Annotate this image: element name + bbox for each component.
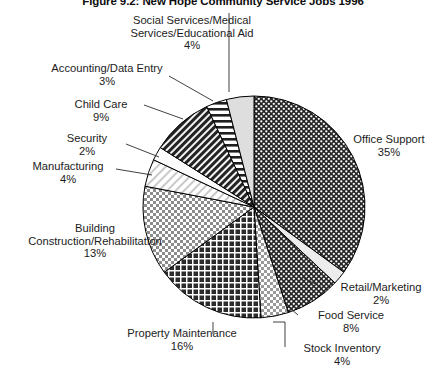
slice-value: 4% bbox=[23, 173, 113, 186]
slice-label-line1: Child Care bbox=[75, 98, 128, 110]
leader-child-care bbox=[144, 105, 183, 119]
slice-value: 4% bbox=[92, 39, 292, 52]
leader-manufacturing bbox=[116, 169, 152, 175]
slice-label-line2: Construction/Rehabilitation bbox=[28, 235, 162, 247]
slice-label-office-support: Office Support 35% bbox=[340, 133, 438, 158]
pie-chart-figure: Figure 9.2: New Hope Community Service J… bbox=[0, 0, 446, 370]
slice-label-manufacturing: Manufacturing 4% bbox=[23, 160, 113, 185]
leader-security bbox=[126, 144, 159, 157]
slice-label-line1: Building bbox=[75, 222, 115, 234]
slice-label-line1: Retail/Marketing bbox=[341, 281, 422, 293]
slice-value: 3% bbox=[47, 75, 167, 88]
leader-stock-inventory bbox=[273, 322, 285, 347]
slice-label-line1: Stock Inventory bbox=[303, 342, 380, 354]
slice-value: 8% bbox=[304, 322, 398, 335]
slice-label-retail-marketing: Retail/Marketing 2% bbox=[326, 281, 436, 306]
slice-value: 4% bbox=[290, 355, 394, 368]
slice-label-line2: Services/Educational Aid bbox=[130, 27, 253, 39]
slice-label-line1: Manufacturing bbox=[33, 160, 104, 172]
slice-label-line1: Property Maintenance bbox=[127, 327, 236, 339]
slice-value: 9% bbox=[63, 111, 139, 124]
slice-label-food-service: Food Service 8% bbox=[304, 309, 398, 334]
slice-value: 13% bbox=[2, 247, 188, 260]
slice-label-social-services: Social Services/Medical Services/Educati… bbox=[92, 14, 292, 52]
slice-label-line1: Food Service bbox=[318, 309, 384, 321]
slice-label-property-maintenance: Property Maintenance 16% bbox=[108, 327, 256, 352]
slice-label-building-construction: Building Construction/Rehabilitation 13% bbox=[2, 222, 188, 260]
leader-accounting bbox=[169, 76, 213, 101]
slice-label-security: Security 2% bbox=[56, 132, 118, 157]
slice-label-child-care: Child Care 9% bbox=[63, 98, 139, 123]
slice-label-line1: Social Services/Medical bbox=[133, 14, 251, 26]
slice-value: 2% bbox=[326, 294, 436, 307]
slice-label-line1: Security bbox=[67, 132, 107, 144]
slice-label-line1: Office Support bbox=[353, 133, 424, 145]
slice-label-line1: Accounting/Data Entry bbox=[51, 62, 162, 74]
slice-label-accounting: Accounting/Data Entry 3% bbox=[47, 62, 167, 87]
slice-label-stock-inventory: Stock Inventory 4% bbox=[290, 342, 394, 367]
slice-value: 2% bbox=[56, 145, 118, 158]
slice-value: 35% bbox=[340, 146, 438, 159]
slice-value: 16% bbox=[108, 340, 256, 353]
